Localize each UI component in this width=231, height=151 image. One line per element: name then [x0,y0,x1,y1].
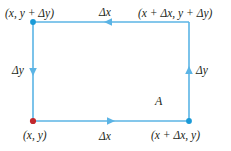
arrowhead-top-left-pointing [104,18,112,26]
arrowhead-bottom-right-pointing [107,117,115,125]
arrowhead-right-up-pointing [185,66,193,74]
vertex-dot-top-left [30,19,36,25]
vertex-dot-bottom-right [186,118,192,124]
edge-label-right-delta-y: Δy [196,65,208,77]
corner-label-top-right: (x + Δx, y + Δy) [138,8,212,20]
edge-label-left-delta-y: Δy [12,65,24,77]
corner-label-bottom-left: (x, y) [23,130,47,142]
corner-label-bottom-right: (x + Δx, y) [151,130,200,142]
figure-canvas: (x, y + Δy) (x + Δx, y + Δy) (x, y) (x +… [0,0,231,151]
corner-label-top-left: (x, y + Δy) [5,8,54,20]
edge-label-bottom-delta-x: Δx [99,131,111,143]
vertex-dot-bottom-left [30,118,36,124]
edge-label-top-delta-x: Δx [99,7,111,19]
region-label-area: A [155,95,162,107]
arrowhead-left-down-pointing [29,68,37,76]
